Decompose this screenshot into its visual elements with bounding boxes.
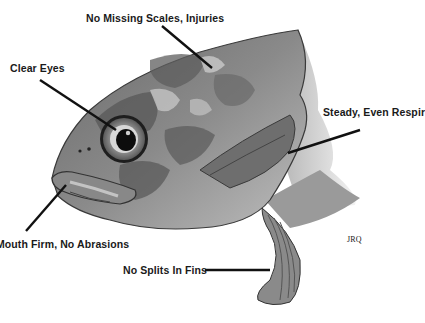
label-steady-respiration: Steady, Even Respir xyxy=(323,106,425,118)
artist-signature: JRQ xyxy=(347,235,362,244)
label-no-missing-scales: No Missing Scales, Injuries xyxy=(86,12,224,24)
eye xyxy=(100,115,148,163)
label-clear-eyes: Clear Eyes xyxy=(10,62,65,74)
label-no-splits-fins: No Splits In Fins xyxy=(123,264,207,276)
label-mouth-firm: Mouth Firm, No Abrasions xyxy=(0,238,129,250)
